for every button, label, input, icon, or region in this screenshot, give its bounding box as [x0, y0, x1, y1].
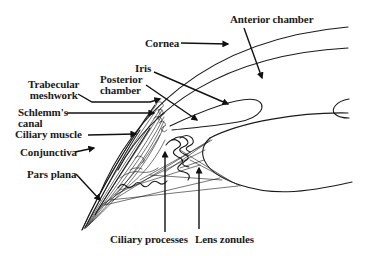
ciliary-muscle-leader: [88, 134, 136, 135]
label-posterior-chamber-line2: chamber: [100, 85, 142, 96]
label-ciliary-muscle: Ciliary muscle: [15, 129, 82, 140]
label-lens-zonules: Lens zonules: [195, 234, 254, 245]
label-posterior-chamber: Posterior chamber: [100, 74, 142, 96]
lens-anterior-surface: [210, 113, 348, 138]
cornea-leader: [181, 43, 228, 44]
label-pars-plana: Pars plana: [27, 169, 76, 180]
label-trabecular-meshwork: Trabecular meshwork: [28, 79, 79, 101]
pupil-edge: [333, 99, 349, 118]
label-schlemms-canal: Schlemm's canal: [18, 107, 68, 129]
label-conjunctiva: Conjunctiva: [20, 147, 77, 158]
conjunctiva-leader: [75, 148, 94, 152]
posterior-chamber-leader: [146, 85, 197, 120]
label-trabecular-line2: meshwork: [28, 90, 79, 101]
label-anterior-chamber: Anterior chamber: [230, 14, 313, 25]
iris: [170, 99, 262, 130]
iris-leader: [154, 72, 228, 104]
pars-plana-leader: [76, 174, 100, 200]
label-ciliary-processes: Ciliary processes: [110, 234, 188, 245]
trabecular-meshwork: [154, 102, 167, 132]
anterior-chamber-leader: [244, 28, 262, 78]
lens-posterior-surface: [203, 138, 352, 192]
label-cornea: Cornea: [145, 38, 179, 49]
